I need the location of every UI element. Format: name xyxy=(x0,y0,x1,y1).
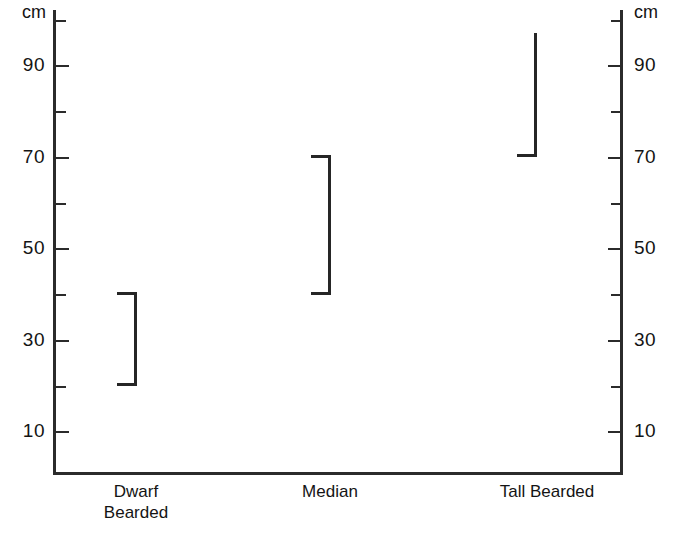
y-tick-label-left-30: 30 xyxy=(0,329,45,351)
y-axis-left-unit-label: cm xyxy=(4,2,46,23)
y-minor-tick-right-40 xyxy=(611,294,621,296)
y-minor-tick-right-80 xyxy=(611,111,621,113)
y-tick-label-left-70: 70 xyxy=(0,146,45,168)
y-axis-right-unit-label: cm xyxy=(634,2,658,23)
y-minor-tick-left-20 xyxy=(56,386,66,388)
y-tick-left-50 xyxy=(56,248,69,250)
y-tick-right-50 xyxy=(608,248,621,250)
y-tick-label-right-50: 50 xyxy=(634,237,656,259)
range-cap-low xyxy=(517,154,537,157)
y-tick-right-70 xyxy=(608,157,621,159)
y-tick-left-30 xyxy=(56,340,69,342)
y-minor-tick-right-60 xyxy=(611,203,621,205)
range-cap-low xyxy=(311,292,331,295)
y-tick-label-right-70: 70 xyxy=(634,146,656,168)
y-tick-label-right-30: 30 xyxy=(634,329,656,351)
range-bracket-tall-bearded xyxy=(534,33,537,157)
x-category-label-line1: Dwarf xyxy=(75,481,197,502)
y-minor-tick-right-20 xyxy=(611,386,621,388)
y-axis-left xyxy=(53,10,56,475)
y-tick-right-10 xyxy=(608,431,621,433)
range-cap-high xyxy=(311,155,331,158)
y-tick-label-right-90: 90 xyxy=(634,54,656,76)
x-category-label-line1: Tall Bearded xyxy=(474,481,620,502)
x-category-label-line1: Median xyxy=(269,481,391,502)
range-cap-low xyxy=(117,383,137,386)
range-cap-high xyxy=(117,292,137,295)
y-axis-right xyxy=(620,10,623,475)
iris-height-range-chart: cm 90 70 50 30 10 cm 90 70 50 30 10 Dwar… xyxy=(0,0,682,536)
x-category-label-line2: Bearded xyxy=(75,502,197,523)
range-bracket-dwarf-bearded xyxy=(134,292,137,386)
y-minor-tick-left-60 xyxy=(56,203,66,205)
y-tick-right-30 xyxy=(608,340,621,342)
y-minor-tick-right-100 xyxy=(611,20,621,22)
y-minor-tick-left-100 xyxy=(56,20,66,22)
y-minor-tick-left-80 xyxy=(56,111,66,113)
x-axis-baseline xyxy=(53,472,623,475)
y-tick-label-left-10: 10 xyxy=(0,420,45,442)
y-tick-label-left-50: 50 xyxy=(0,237,45,259)
range-bracket-median xyxy=(328,155,331,295)
y-tick-left-10 xyxy=(56,431,69,433)
y-tick-left-90 xyxy=(56,65,69,67)
range-stem xyxy=(328,155,331,295)
range-stem xyxy=(134,292,137,386)
range-stem xyxy=(534,33,537,157)
y-tick-label-left-90: 90 xyxy=(0,54,45,76)
x-category-label-tall-bearded: Tall Bearded xyxy=(474,481,620,502)
y-tick-left-70 xyxy=(56,157,69,159)
y-tick-label-right-10: 10 xyxy=(634,420,656,442)
x-category-label-median: Median xyxy=(269,481,391,502)
y-minor-tick-left-40 xyxy=(56,294,66,296)
x-category-label-dwarf-bearded: Dwarf Bearded xyxy=(75,481,197,523)
y-tick-right-90 xyxy=(608,65,621,67)
